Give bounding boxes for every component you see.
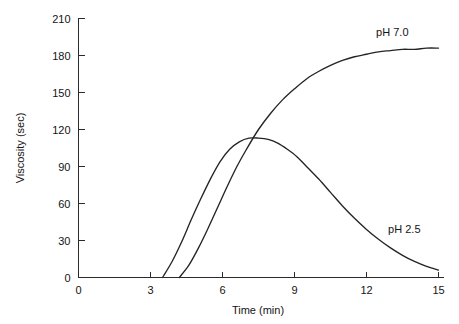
chart-figure: 0306090120150180210 03691215 pH 7.0pH 2.… [0,0,459,324]
annotation-ph-7-0: pH 7.0 [376,26,408,38]
y-tick-label: 60 [58,198,70,210]
y-tick-label: 90 [58,161,70,173]
y-tick-label: 0 [64,272,70,284]
data-series-group [163,48,439,277]
y-tick-label: 120 [52,124,70,136]
x-axis: 03691215 [75,272,444,296]
y-tick-label: 210 [52,13,70,25]
x-axis-title: Time (min) [232,304,284,316]
x-tick-label: 15 [432,284,444,296]
y-axis: 0306090120150180210 [52,13,84,284]
y-tick-marks [79,19,85,278]
y-tick-label: 180 [52,50,70,62]
y-tick-label: 150 [52,87,70,99]
viscosity-vs-time-plot: 0306090120150180210 03691215 pH 7.0pH 2.… [0,0,459,324]
annotation-ph-2-5: pH 2.5 [388,223,420,235]
y-tick-labels: 0306090120150180210 [52,13,70,284]
series-annotations: pH 7.0pH 2.5 [376,26,420,235]
x-tick-label: 6 [219,284,225,296]
y-axis-title: Viscosity (sec) [14,113,26,184]
x-tick-marks [79,272,439,278]
x-tick-label: 3 [147,284,153,296]
x-tick-label: 0 [75,284,81,296]
y-tick-label: 30 [58,235,70,247]
x-tick-labels: 03691215 [75,284,444,296]
series-curve-ph-7-0 [179,48,438,277]
series-curve-ph-2-5 [163,138,439,278]
x-tick-label: 9 [291,284,297,296]
x-tick-label: 12 [360,284,372,296]
